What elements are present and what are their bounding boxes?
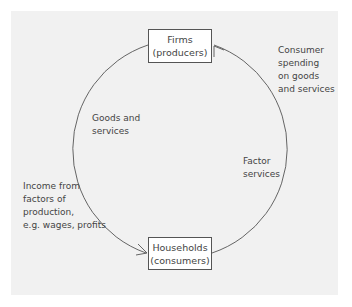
right-arc bbox=[212, 45, 287, 253]
firms-box: Firms (producers) bbox=[148, 29, 212, 63]
households-sublabel: (consumers) bbox=[149, 254, 211, 267]
households-label: Households bbox=[149, 241, 211, 254]
consumer-spending-label: Consumer spending on goods and services bbox=[278, 44, 335, 96]
arrowhead-firms-icon bbox=[214, 46, 224, 57]
firms-label: Firms bbox=[149, 33, 211, 46]
goods-services-label: Goods and services bbox=[92, 112, 140, 138]
income-label: Income from factors of production, e.g. … bbox=[23, 180, 106, 232]
factor-services-label: Factor services bbox=[243, 155, 280, 181]
households-box: Households (consumers) bbox=[148, 237, 212, 270]
firms-sublabel: (producers) bbox=[149, 46, 211, 59]
